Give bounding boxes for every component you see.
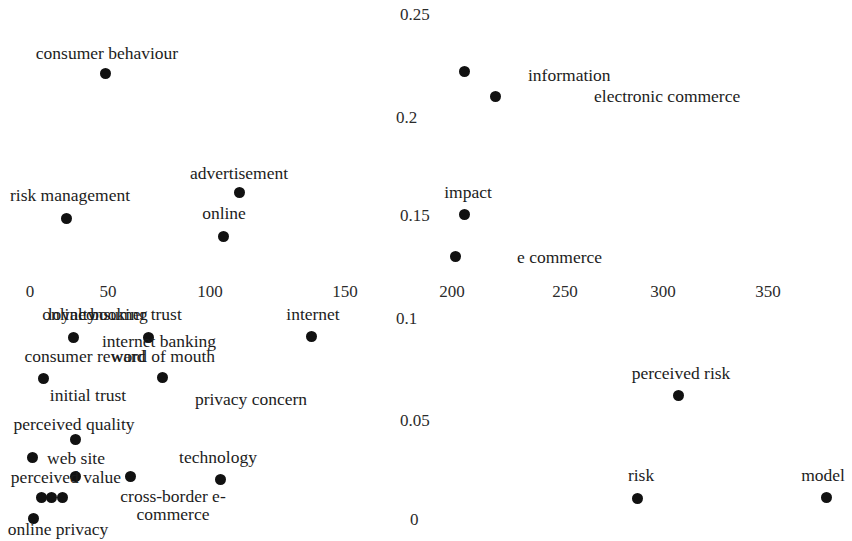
data-point-marker [215, 474, 226, 485]
data-point-marker [234, 187, 245, 198]
y-axis-tick-0.1: 0.1 [396, 310, 417, 327]
x-axis-tick-150: 150 [332, 283, 358, 300]
data-point-marker [38, 373, 49, 384]
scatter-plot: 050100150200250300350 0.250.20.150.10.05… [0, 0, 852, 541]
data-point-marker [46, 492, 57, 503]
data-point-marker [821, 492, 832, 503]
point-label-consumer-trust: consumer trust [78, 305, 182, 323]
point-label-cross-border-e-commerce: cross-border e-commerce [113, 487, 233, 524]
point-label-initial-trust: initial trust [50, 386, 126, 404]
data-point-marker [125, 471, 136, 482]
y-axis-tick-0.25: 0.25 [400, 6, 430, 23]
data-point-marker [673, 390, 684, 401]
x-axis-tick-250: 250 [552, 283, 578, 300]
x-axis-tick-0: 0 [26, 283, 35, 300]
x-axis-tick-350: 350 [755, 283, 781, 300]
x-axis-tick-300: 300 [650, 283, 676, 300]
data-point-marker [57, 492, 68, 503]
y-axis-tick-0.05: 0.05 [400, 412, 430, 429]
data-point-marker [157, 372, 168, 383]
data-point-marker [100, 68, 111, 79]
data-point-marker [632, 493, 643, 504]
data-point-marker [68, 332, 79, 343]
point-label-web-site: web site [47, 449, 105, 467]
point-label-internet: internet [286, 305, 339, 323]
point-label-privacy-concern: privacy concern [195, 390, 307, 408]
point-label-risk-management: risk management [10, 186, 130, 204]
point-label-online: online [202, 204, 246, 222]
data-point-marker [490, 91, 501, 102]
data-point-marker [27, 452, 38, 463]
point-label-perceived-value: perceived value [11, 468, 121, 486]
data-point-marker [70, 434, 81, 445]
point-label-electronic-commerce: electronic commerce [594, 87, 740, 105]
point-label-advertisement: advertisement [190, 164, 288, 182]
point-label-risk: risk [628, 466, 654, 484]
y-axis-tick-0: 0 [410, 511, 419, 528]
point-label-perceived-quality: perceived quality [14, 415, 135, 433]
point-label-word-of-mouth: word of mouth [111, 347, 215, 365]
point-label-technology: technology [179, 448, 257, 466]
data-point-marker [459, 209, 470, 220]
point-label-model: model [801, 466, 845, 484]
point-label-information: information [528, 66, 611, 84]
data-point-marker [218, 231, 229, 242]
data-point-marker [36, 492, 47, 503]
point-label-consumer-behaviour: consumer behaviour [36, 44, 178, 62]
point-label-online-privacy: online privacy [8, 520, 109, 538]
data-point-marker [306, 331, 317, 342]
data-point-marker [459, 66, 470, 77]
y-axis-tick-0.2: 0.2 [396, 109, 417, 126]
point-label-e-commerce: e commerce [517, 248, 602, 266]
y-axis-tick-0.15: 0.15 [400, 207, 430, 224]
point-label-perceived-risk: perceived risk [632, 364, 731, 382]
x-axis-tick-50: 50 [100, 283, 117, 300]
data-point-marker [61, 213, 72, 224]
data-point-marker [450, 251, 461, 262]
point-label-impact: impact [444, 183, 492, 201]
x-axis-tick-100: 100 [197, 283, 223, 300]
x-axis-tick-200: 200 [439, 283, 465, 300]
